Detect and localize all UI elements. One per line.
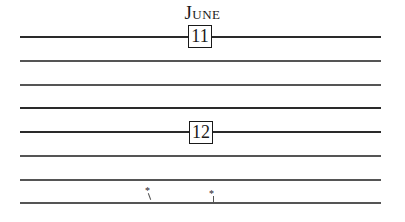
ruled-line (20, 202, 381, 204)
ruled-line (20, 60, 381, 62)
ruled-line (20, 84, 381, 86)
ruled-line (20, 179, 381, 181)
month-heading: June (0, 2, 405, 24)
asterisk-mark-icon: * (145, 186, 150, 196)
asterisk-mark-icon: * (209, 189, 214, 199)
ruled-line (20, 155, 381, 157)
ruled-line (20, 107, 381, 109)
day-number: 11 (191, 26, 208, 46)
day-box-11: 11 (188, 25, 212, 48)
day-box-12: 12 (189, 121, 213, 144)
day-number: 12 (192, 122, 210, 142)
